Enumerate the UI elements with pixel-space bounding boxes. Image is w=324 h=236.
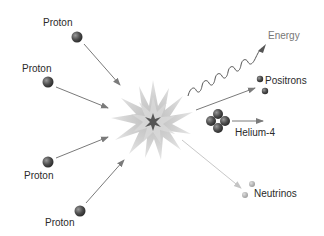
neutrino-particle-icon — [249, 181, 255, 187]
proton-particle-icon — [43, 157, 54, 168]
proton-arrow — [56, 137, 108, 158]
proton-label-4: Proton — [45, 218, 74, 228]
positron-particle-icon — [257, 76, 263, 82]
proton-particle-icon — [75, 206, 86, 217]
neutrino-particle-icon — [242, 192, 248, 198]
proton-particle-icon — [43, 77, 54, 88]
neutrinos-output — [182, 140, 255, 198]
positron-particle-icon — [262, 88, 268, 94]
proton-arrow — [86, 160, 124, 203]
fusion-burst-icon — [111, 80, 193, 160]
proton-3 — [43, 137, 109, 168]
neutrinos-arrow — [182, 140, 241, 188]
energy-wave-icon — [188, 48, 262, 96]
proton-1 — [72, 32, 121, 86]
energy-label: Energy — [268, 31, 300, 41]
proton-label-3: Proton — [24, 171, 53, 181]
positrons-arrow — [196, 88, 255, 110]
helium-label: Helium-4 — [235, 128, 275, 138]
proton-arrow — [56, 87, 108, 108]
neutrinos-label: Neutrinos — [254, 189, 297, 199]
positrons-label: Positrons — [265, 76, 307, 86]
proton-particle-icon — [72, 32, 83, 43]
proton-4 — [75, 160, 125, 217]
proton-label-1: Proton — [43, 18, 72, 28]
proton-2 — [43, 77, 109, 109]
proton-label-2: Proton — [22, 64, 51, 74]
proton-arrow — [84, 44, 120, 85]
helium-nucleus-icon — [206, 109, 230, 133]
